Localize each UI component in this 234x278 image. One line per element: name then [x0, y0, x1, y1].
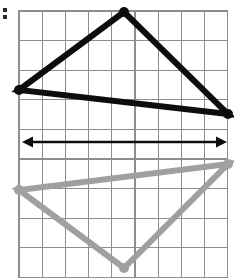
image-triangle-gray: [14, 159, 233, 273]
reflection-axis-arrow: [22, 137, 227, 148]
gray-triangle-outline: [19, 164, 228, 268]
arrowhead-left-icon: [22, 137, 33, 148]
arrowhead-right-icon: [216, 137, 227, 148]
grid: [19, 11, 228, 277]
vertex-dot-apex: [119, 263, 129, 273]
vertex-dot-apex: [119, 7, 129, 17]
corner-tick-mark: [3, 8, 7, 19]
pre-image-triangle-black: [14, 7, 233, 119]
geometry-figure: [0, 0, 234, 278]
corner-tick-upper: [3, 8, 7, 12]
figure-canvas: [0, 0, 234, 278]
vertex-dot-left: [14, 185, 24, 195]
black-triangle-outline: [19, 12, 228, 114]
grid-border: [19, 11, 228, 277]
corner-tick-lower: [3, 15, 7, 19]
vertex-dot-right: [223, 159, 233, 169]
vertex-dot-left: [14, 85, 24, 95]
vertex-dot-right: [223, 109, 233, 119]
